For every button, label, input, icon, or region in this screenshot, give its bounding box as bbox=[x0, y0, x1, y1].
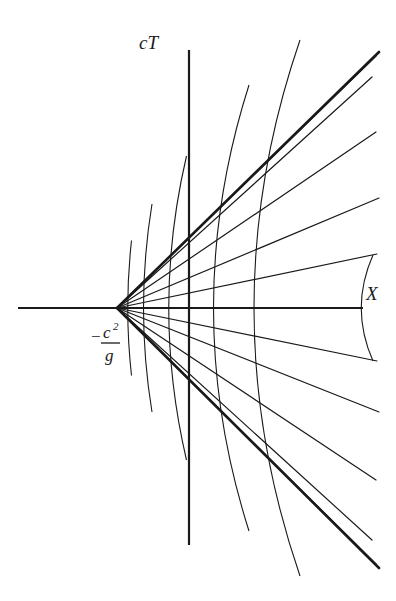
apex-label-minus-sign: − bbox=[90, 327, 101, 346]
rindler-spacetime-diagram: cT X − c 2 g bbox=[0, 0, 396, 601]
apex-label-numerator: c bbox=[103, 323, 111, 342]
apex-label-exponent: 2 bbox=[113, 320, 119, 332]
horizontal-axis-label: X bbox=[365, 283, 379, 304]
apex-label-denominator: g bbox=[105, 346, 114, 365]
vertical-axis-label: cT bbox=[139, 32, 159, 53]
figure-background bbox=[0, 0, 396, 601]
